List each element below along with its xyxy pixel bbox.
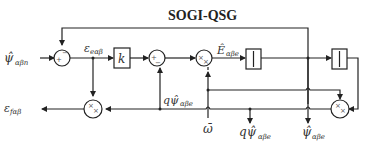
multiplier-3: × × — [331, 100, 349, 118]
multiplier-2: × × — [196, 50, 212, 66]
sogi-qsg-block-diagram: SOGI-QSG ψ̂ αβn + − ε eαβ k + − × × Ê — [0, 0, 372, 148]
sum-junction-1: + − — [54, 49, 70, 66]
integrator2-out-wire — [347, 58, 358, 109]
input-label: ψ̂ αβn — [4, 51, 29, 67]
q-psi-wire — [106, 107, 331, 109]
E-hat-label: Ê αβe — [216, 43, 239, 58]
omega-label: ω̄ — [203, 122, 213, 136]
sum-junction-2: + − — [149, 50, 165, 67]
svg-text:eαβ: eαβ — [90, 48, 103, 56]
svg-text:×: × — [340, 107, 346, 115]
svg-text:+: + — [56, 56, 62, 64]
q-psi-out-label: qψ̂ αβe — [239, 125, 271, 141]
error-e-label: ε eαβ — [84, 42, 103, 56]
svg-text:×: × — [203, 58, 209, 66]
svg-text:ω̄: ω̄ — [203, 122, 213, 136]
svg-text:αβn: αβn — [15, 59, 29, 67]
svg-text:Ê: Ê — [216, 43, 225, 57]
integrator-1 — [246, 49, 261, 69]
svg-text:qψ̂: qψ̂ — [163, 94, 179, 107]
svg-text:αβe: αβe — [226, 50, 239, 58]
psi-out-label: ψ̂ αβe — [302, 125, 325, 141]
svg-text:×: × — [93, 107, 99, 115]
error-f-label: ε fαβ — [4, 102, 21, 116]
svg-text:αβe: αβe — [180, 100, 193, 108]
svg-text:−: − — [62, 49, 68, 57]
svg-text:αβe: αβe — [258, 133, 271, 141]
svg-text:k: k — [118, 52, 125, 66]
integrator-2 — [332, 49, 347, 69]
svg-text:αβe: αβe — [312, 133, 325, 141]
omega-to-mult3-wire — [208, 88, 340, 99]
svg-text:−: − — [155, 59, 161, 67]
svg-text:qψ̂: qψ̂ — [239, 125, 257, 139]
multiplier-1: × × — [84, 100, 102, 118]
diagram-title: SOGI-QSG — [168, 8, 237, 23]
gain-block: k — [114, 48, 130, 68]
svg-text:ψ̂: ψ̂ — [4, 51, 14, 65]
feedback-wire — [62, 28, 308, 104]
svg-text:ψ̂: ψ̂ — [302, 125, 312, 139]
svg-text:fαβ: fαβ — [9, 108, 21, 116]
q-psi-mid-label: qψ̂ αβe — [163, 94, 193, 108]
